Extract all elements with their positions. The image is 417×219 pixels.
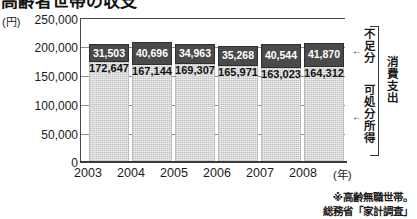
- bar-group-2006[interactable]: 35,268 165,971: [218, 46, 258, 162]
- bar-group-2003[interactable]: 31,503 172,647: [89, 44, 129, 162]
- value-income-2006: 165,971: [218, 67, 258, 78]
- bar-income-2005[interactable]: [175, 64, 215, 162]
- x-tick-2007: 2007: [237, 166, 283, 180]
- value-shortfall-2005: 34,963: [175, 48, 215, 59]
- y-tick-100000: 100,000: [0, 100, 78, 112]
- value-income-2008: 164,312: [304, 68, 344, 79]
- bar-group-2004[interactable]: 40,696 167,144: [132, 42, 172, 162]
- x-tick-2008: 2008: [280, 166, 326, 180]
- bar-income-2004[interactable]: [132, 65, 172, 162]
- bar-income-2003[interactable]: [89, 62, 129, 162]
- value-income-2004: 167,144: [132, 66, 172, 77]
- callout-consumption-expenditure: 消費支出: [385, 56, 397, 112]
- y-tick-250000: 250,000: [0, 14, 78, 26]
- footnote-line-2: 総務省「家計調査」: [323, 203, 413, 218]
- y-axis-tick-labels: 250,000 200,000 150,000 100,000 50,000 0: [0, 0, 78, 219]
- bar-income-2006[interactable]: [218, 66, 258, 162]
- x-tick-2004: 2004: [108, 166, 154, 180]
- value-income-2007: 163,023: [261, 69, 301, 80]
- value-shortfall-2003: 31,503: [89, 48, 129, 59]
- value-income-2003: 172,647: [89, 63, 129, 74]
- consumption-bracket: [370, 26, 379, 156]
- chart-container: 高齢者世帯の収支 (円) 250,000 200,000 150,000 100…: [0, 0, 417, 219]
- value-shortfall-2004: 40,696: [132, 48, 172, 59]
- y-tick-150000: 150,000: [0, 71, 78, 83]
- bar-group-2005[interactable]: 34,963 169,307: [175, 44, 215, 162]
- bar-group-2007[interactable]: 40,544 163,023: [261, 44, 301, 162]
- bar-income-2008[interactable]: [304, 67, 344, 162]
- x-axis-line: [80, 161, 347, 163]
- x-axis-unit-label: (年): [333, 166, 352, 182]
- bar-income-2007[interactable]: [261, 68, 301, 162]
- plot-area: 31,503 172,647 40,696 167,144 34,963 169…: [80, 18, 345, 162]
- value-shortfall-2007: 40,544: [261, 50, 301, 61]
- shortfall-arrow-icon: ←: [352, 46, 362, 56]
- bar-group-2008[interactable]: 41,870 164,312: [304, 43, 344, 162]
- x-tick-2003: 2003: [65, 166, 111, 180]
- disposable-income-arrow-icon: ←: [352, 112, 362, 122]
- value-shortfall-2006: 35,268: [218, 50, 258, 61]
- x-tick-2006: 2006: [194, 166, 240, 180]
- y-tick-200000: 200,000: [0, 42, 78, 54]
- x-tick-2005: 2005: [151, 166, 197, 180]
- value-income-2005: 169,307: [175, 65, 215, 76]
- value-shortfall-2008: 41,870: [304, 49, 344, 60]
- y-tick-50000: 50,000: [0, 129, 78, 141]
- footnote-line-1: ※高齢無職世帯。: [333, 189, 413, 204]
